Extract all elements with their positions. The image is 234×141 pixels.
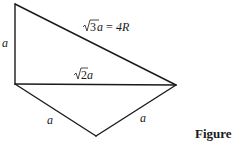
hypotenuse-var: a — [97, 20, 103, 34]
hypotenuse-rhs: 4R — [116, 20, 130, 34]
label-hypotenuse: 3 a = 4R — [83, 20, 130, 34]
edge-hypotenuse — [15, 4, 176, 85]
edge-bottom-left — [15, 84, 96, 136]
label-bottom-left: a — [47, 113, 53, 127]
label-middle-horizontal: 2 a — [74, 68, 93, 82]
geometry-figure: a 3 a = 4R 2 a a a Figure — [0, 0, 234, 141]
hypotenuse-root: 3 — [90, 20, 96, 34]
middle-var: a — [87, 68, 93, 82]
edge-bottom-right — [96, 85, 176, 136]
figure-caption: Figure — [195, 126, 232, 141]
label-bottom-right: a — [140, 111, 146, 125]
hypotenuse-equals: = — [106, 20, 113, 34]
edge-middle-horizontal — [15, 84, 176, 85]
label-left-vertical: a — [2, 36, 8, 50]
